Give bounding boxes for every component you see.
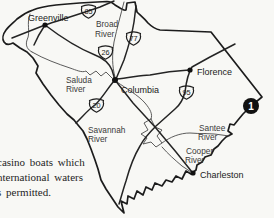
charleston-city-dot <box>190 170 195 175</box>
charleston-label: Charleston <box>200 170 244 180</box>
savannah-river-label-line2: River <box>88 134 108 144</box>
broad-river-label-line2: River <box>95 29 115 39</box>
cooper-river-label-line2: River <box>185 155 205 165</box>
santee-river-line <box>162 133 229 143</box>
caption-line-1: casino boats which <box>0 155 93 170</box>
florence-city-dot <box>187 67 192 72</box>
greenville-city-dot <box>42 22 47 27</box>
scanned-map-page: Greenville Columbia Florence Charleston … <box>0 0 274 218</box>
interstate-20-shield: 20 <box>89 99 103 112</box>
santee-river-label-line2: River <box>198 132 218 142</box>
saluda-river-label-line2: River <box>66 84 86 94</box>
location-marker-1: 1 <box>243 98 259 114</box>
florence-label: Florence <box>197 67 232 77</box>
caption-line-2: nternational waters <box>0 170 93 185</box>
marker-number: 1 <box>248 101 254 112</box>
svg-text:85: 85 <box>84 7 92 16</box>
interstate-95-shield: 95 <box>179 86 193 99</box>
svg-text:77: 77 <box>129 34 137 43</box>
svg-text:95: 95 <box>182 88 190 97</box>
columbia-label: Columbia <box>121 85 159 95</box>
caption-text: casino boats which nternational waters s… <box>0 155 93 200</box>
caption-line-3: s permitted. <box>0 185 93 200</box>
interstate-85-shield: 85 <box>81 5 95 18</box>
interstate-20-east-line <box>116 70 189 79</box>
greenville-label: Greenville <box>28 13 69 23</box>
broad-river-label-line1: Broad <box>96 19 119 29</box>
svg-text:26: 26 <box>101 48 109 57</box>
svg-text:20: 20 <box>92 101 100 110</box>
columbia-city-dot <box>112 77 118 83</box>
